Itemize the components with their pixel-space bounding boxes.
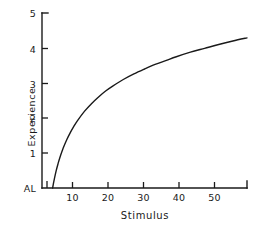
x-tick-label-20: 20 (102, 192, 115, 203)
y-tick-label-1: 1 (14, 148, 36, 159)
y-axis-title: Experience (26, 88, 37, 147)
y-axis-ticks (42, 49, 48, 154)
x-tick-label-30: 30 (137, 192, 150, 203)
y-tick-label-4: 4 (14, 43, 36, 54)
y-tick-label-al: AL (10, 183, 36, 194)
x-axis-ticks (47, 181, 215, 188)
x-tick-label-40: 40 (173, 192, 186, 203)
y-axis (42, 13, 48, 188)
x-tick-label-50: 50 (208, 192, 221, 203)
x-axis-title: Stimulus (121, 210, 169, 221)
y-tick-label-5: 5 (14, 8, 36, 19)
chart-figure: 5 4 3 2 1 AL 10 20 30 40 50 Experience S… (0, 0, 268, 234)
x-tick-label-10: 10 (66, 192, 79, 203)
chart-plot-area (0, 0, 268, 234)
data-curve-fechner (53, 38, 247, 188)
